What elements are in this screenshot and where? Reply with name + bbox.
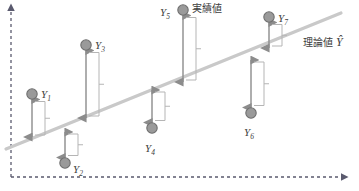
data-point-Y2 (60, 132, 83, 168)
point-label-Y2: Y2 (73, 164, 83, 178)
marker-Y2[interactable] (60, 158, 70, 168)
data-point-Y6 (246, 60, 269, 118)
marker-Y7[interactable] (264, 12, 274, 22)
regression-line (6, 13, 341, 149)
point-label-Y7: Y7 (278, 13, 288, 27)
data-point-Y4 (147, 90, 170, 133)
marker-Y6[interactable] (246, 108, 256, 118)
residual-bracket-Y6 (254, 62, 269, 106)
residual-bracket-Y2 (68, 134, 83, 156)
residual-bracket-Y1 (35, 102, 50, 136)
regression-residual-diagram: Y1Y2Y3Y4Y5Y6Y7 実績値 理論値Ŷ (0, 0, 359, 191)
actual-value-annotation: 実績値 (192, 4, 222, 14)
residual-bracket-Y4 (155, 92, 170, 121)
axis-group (11, 10, 342, 177)
marker-Y5[interactable] (178, 5, 188, 15)
diagram-canvas (0, 0, 359, 191)
theoretical-value-annotation: 理論値Ŷ (303, 36, 343, 48)
point-label-Y5: Y5 (160, 7, 170, 21)
point-label-Y1: Y1 (41, 89, 51, 103)
marker-Y3[interactable] (81, 40, 91, 50)
theoretical-value-text: 理論値 (303, 37, 333, 48)
marker-Y1[interactable] (27, 89, 37, 99)
point-label-Y6: Y6 (244, 127, 254, 141)
residual-bracket-Y7 (272, 25, 287, 47)
residual-bracket-Y3 (89, 53, 104, 117)
marker-Y4[interactable] (147, 123, 157, 133)
y-hat-symbol: Ŷ (333, 35, 343, 49)
point-label-Y4: Y4 (145, 143, 155, 157)
point-label-Y3: Y3 (95, 40, 105, 54)
